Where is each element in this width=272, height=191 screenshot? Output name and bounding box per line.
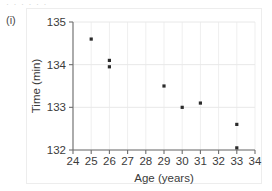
y-tick-label: 134 bbox=[47, 59, 67, 71]
y-axis-tick-marks bbox=[69, 22, 73, 150]
x-tick-label: 25 bbox=[85, 155, 98, 167]
y-tick-label: 132 bbox=[47, 144, 66, 156]
data-point bbox=[108, 65, 111, 68]
data-point bbox=[235, 146, 238, 149]
cropped-text-sliver: · · · · · · bbox=[6, 0, 126, 6]
x-tick-label: 26 bbox=[103, 155, 116, 167]
x-tick-label: 27 bbox=[121, 155, 134, 167]
figure-item-label: (i) bbox=[6, 14, 16, 26]
x-axis-tick-marks bbox=[73, 150, 255, 154]
figure-container: · · · · · · (i) 132133134135 24252627282… bbox=[0, 0, 272, 191]
x-tick-label: 29 bbox=[158, 155, 171, 167]
x-tick-label: 31 bbox=[194, 155, 207, 167]
x-tick-label: 30 bbox=[176, 155, 189, 167]
data-point bbox=[199, 101, 202, 104]
x-tick-label: 33 bbox=[230, 155, 243, 167]
x-tick-label: 28 bbox=[139, 155, 152, 167]
x-axis-title: Age (years) bbox=[134, 172, 194, 184]
x-tick-label: 32 bbox=[212, 155, 225, 167]
data-point bbox=[108, 59, 111, 62]
x-tick-label: 34 bbox=[249, 155, 262, 167]
data-point bbox=[181, 106, 184, 109]
y-axis-title: Time (min) bbox=[30, 59, 42, 114]
scatter-plot: 132133134135 2425262728293031323334 Time… bbox=[26, 8, 262, 184]
data-point bbox=[162, 84, 165, 87]
x-tick-label: 24 bbox=[67, 155, 80, 167]
y-tick-label: 135 bbox=[47, 16, 66, 28]
y-axis-tick-labels: 132133134135 bbox=[47, 16, 67, 156]
x-axis-tick-labels: 2425262728293031323334 bbox=[67, 155, 262, 167]
data-point bbox=[235, 123, 238, 126]
data-point bbox=[90, 37, 93, 40]
y-tick-label: 133 bbox=[47, 101, 66, 113]
